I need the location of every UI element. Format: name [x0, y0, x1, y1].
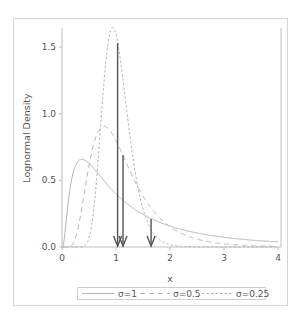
y-axis-label: Lognormal Density	[21, 93, 32, 183]
curve--0-5	[62, 126, 278, 247]
x-tick-label: 4	[275, 253, 281, 263]
y-tick-label: 1.5	[42, 42, 56, 52]
curve--0-25	[62, 28, 278, 247]
outer-frame	[14, 19, 288, 306]
curve--1	[62, 159, 278, 247]
mean-arrows	[114, 43, 155, 246]
y-axis-ticks: 0.00.51.01.5	[42, 42, 62, 252]
x-axis-ticks: 01234	[59, 247, 281, 263]
x-tick-label: 3	[221, 253, 227, 263]
legend-label-sigma-1: σ=1	[118, 289, 137, 299]
lognormal-density-chart: 0.00.51.01.5 01234 Lognormal Density x σ…	[0, 0, 298, 316]
x-axis-label: x	[167, 273, 173, 284]
legend-label-sigma-0-25: σ=0.25	[236, 289, 269, 299]
y-tick-label: 0.5	[42, 175, 56, 185]
x-tick-label: 2	[167, 253, 173, 263]
legend: σ=1 σ=0.5 σ=0.25	[78, 288, 270, 300]
y-tick-label: 1.0	[42, 109, 57, 119]
x-tick-label: 1	[113, 253, 119, 263]
density-curves	[62, 28, 278, 247]
legend-label-sigma-0-5: σ=0.5	[173, 289, 201, 299]
y-tick-label: 0.0	[42, 242, 57, 252]
x-tick-label: 0	[59, 253, 65, 263]
